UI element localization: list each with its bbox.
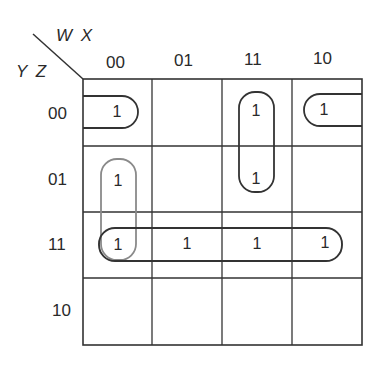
row-header-10: 10 [52,301,71,321]
cell-11-00: 1 [108,236,128,254]
cell-00-10: 1 [314,101,334,119]
cell-11-01: 1 [177,235,197,253]
cell-00-11: 1 [246,102,266,120]
row-header-00: 00 [48,104,67,124]
column-header-01: 01 [174,51,193,71]
column-variables-label: W X [56,26,94,46]
column-header-00: 00 [106,53,125,73]
cell-11-11: 1 [247,235,267,253]
row-header-01: 01 [48,170,67,190]
column-header-10: 10 [313,49,332,69]
cell-01-11: 1 [246,170,266,188]
cell-00-00: 1 [107,103,127,121]
cell-01-00: 1 [108,172,128,190]
row-header-11: 11 [48,235,66,255]
column-header-11: 11 [244,50,262,70]
row-variables-label: Y Z [16,62,48,82]
cell-11-10: 1 [315,234,335,252]
